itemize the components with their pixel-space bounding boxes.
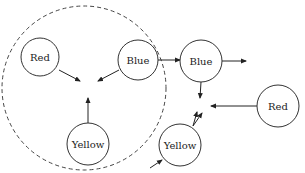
arrow-edge: [150, 160, 162, 168]
node-label: Yellow: [163, 140, 197, 151]
nodes: RedBlueYellowBlueRedYellow: [21, 38, 299, 166]
node-yellow-inner: Yellow: [67, 123, 109, 165]
arrow-edge: [200, 82, 201, 98]
node-label: Red: [268, 101, 288, 112]
node-yellow-outer: Yellow: [159, 124, 201, 166]
node-label: Yellow: [71, 139, 105, 150]
node-blue-outer: Blue: [180, 40, 222, 82]
node-label: Blue: [190, 56, 213, 67]
node-label: Blue: [127, 55, 150, 66]
arrow-edge: [59, 70, 80, 81]
node-red-outer: Red: [257, 85, 299, 127]
node-blue-inner: Blue: [118, 40, 158, 80]
node-red-inner: Red: [21, 38, 59, 76]
arrow-edge: [98, 70, 119, 81]
color-interaction-diagram: RedBlueYellowBlueRedYellow: [0, 0, 305, 173]
node-label: Red: [30, 52, 50, 63]
